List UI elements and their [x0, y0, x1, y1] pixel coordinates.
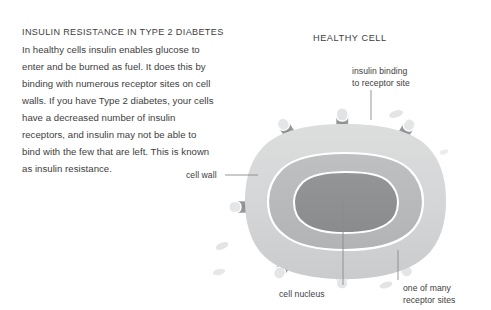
callout-insulin-binding-line2: to receptor site	[352, 78, 410, 90]
insulin-molecule-bound	[229, 202, 241, 213]
callout-cell-nucleus: cell nucleus	[279, 289, 325, 301]
insulin-molecule	[214, 240, 229, 251]
illustration-page: INSULIN RESISTANCE IN TYPE 2 DIABETES In…	[0, 0, 491, 310]
callout-cell-wall: cell wall	[186, 170, 217, 182]
insulin-molecule	[439, 148, 449, 155]
callout-insulin-binding-line1: insulin binding	[352, 66, 410, 78]
cell-nucleus-shape	[294, 172, 398, 233]
callout-receptor-sites: one of many receptor sites	[403, 283, 455, 306]
callout-receptor-sites-line2: receptor sites	[403, 295, 455, 307]
callout-insulin-binding: insulin binding to receptor site	[352, 66, 410, 89]
insulin-molecule	[379, 280, 393, 290]
insulin-molecule	[388, 109, 404, 120]
insulin-molecule	[212, 268, 225, 277]
insulin-molecule-bound	[337, 108, 349, 121]
callout-receptor-sites-line1: one of many	[403, 283, 455, 295]
healthy-cell-illustration	[0, 0, 491, 310]
